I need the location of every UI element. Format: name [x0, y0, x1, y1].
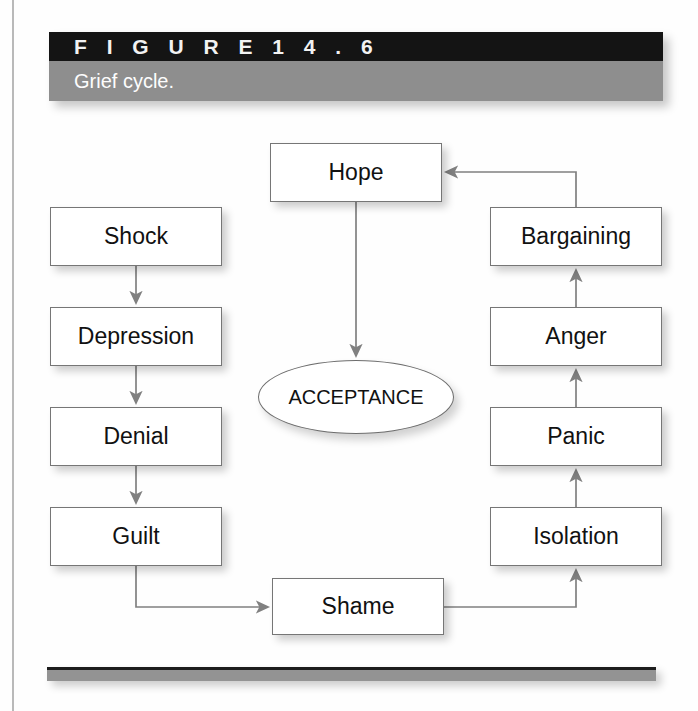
node-shame[interactable]: Shame [272, 578, 444, 635]
figure-bottom-rule [47, 667, 656, 681]
node-shock[interactable]: Shock [50, 207, 222, 266]
node-guilt[interactable]: Guilt [50, 507, 222, 566]
node-anger-label: Anger [545, 323, 606, 350]
node-depression-label: Depression [78, 323, 194, 350]
node-isolation[interactable]: Isolation [490, 507, 662, 566]
node-shame-label: Shame [322, 593, 395, 620]
node-acceptance[interactable]: ACCEPTANCE [258, 360, 454, 434]
node-anger[interactable]: Anger [490, 307, 662, 366]
node-hope[interactable]: Hope [270, 143, 442, 202]
node-panic-label: Panic [547, 423, 605, 450]
node-shock-label: Shock [104, 223, 168, 250]
node-guilt-label: Guilt [112, 523, 159, 550]
edge-bargaining-hope [446, 172, 576, 207]
node-hope-label: Hope [329, 159, 384, 186]
node-panic[interactable]: Panic [490, 407, 662, 466]
edge-guilt-shame [136, 566, 268, 607]
node-bargaining[interactable]: Bargaining [490, 207, 662, 266]
node-isolation-label: Isolation [533, 523, 619, 550]
edge-shame-isolation [444, 570, 576, 607]
node-denial-label: Denial [103, 423, 168, 450]
node-acceptance-label: ACCEPTANCE [288, 386, 423, 409]
grief-cycle-diagram: Hope Shock Bargaining Depression Anger A… [0, 0, 698, 711]
node-bargaining-label: Bargaining [521, 223, 631, 250]
node-denial[interactable]: Denial [50, 407, 222, 466]
figure-page: F I G U R E 1 4 . 6 Grief cycle. [0, 0, 698, 711]
node-depression[interactable]: Depression [50, 307, 222, 366]
